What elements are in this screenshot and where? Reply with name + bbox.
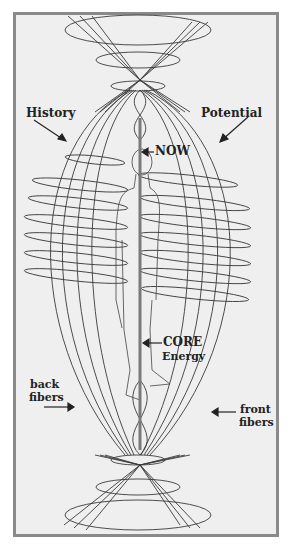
top-ring-small bbox=[111, 81, 165, 91]
energy-label: Energy bbox=[162, 350, 205, 363]
core-label: CORE bbox=[163, 336, 202, 349]
front-fibers-label: fibers bbox=[239, 416, 274, 429]
front-label: front bbox=[240, 403, 271, 416]
energy-field-diagram bbox=[0, 0, 292, 549]
potential-label: Potential bbox=[201, 107, 262, 120]
history-label: History bbox=[26, 107, 76, 120]
now-label: NOW bbox=[155, 145, 190, 158]
bottom-ring-mid bbox=[96, 479, 180, 495]
top-ring-large bbox=[65, 15, 211, 45]
back-fibers-label: fibers bbox=[29, 391, 64, 404]
bottom-ring-large bbox=[65, 500, 211, 530]
right-discs bbox=[138, 170, 251, 305]
left-discs bbox=[24, 153, 128, 287]
top-ring-mid bbox=[96, 52, 180, 68]
back-label: back bbox=[30, 378, 59, 391]
